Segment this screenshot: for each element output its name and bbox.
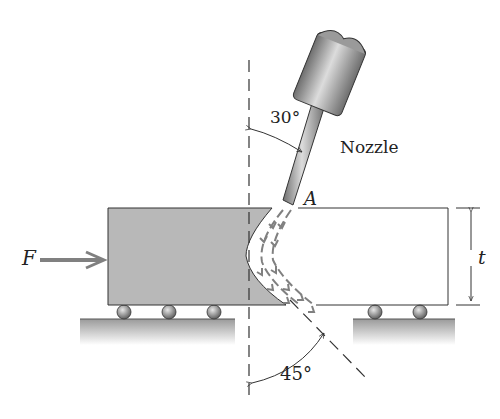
nozzle-body xyxy=(292,26,369,118)
force-arrow xyxy=(40,252,104,268)
angle-45-label: 45° xyxy=(280,363,312,384)
workpiece-cut xyxy=(108,208,286,305)
angle-arc-30 xyxy=(251,129,302,152)
thickness-dimension xyxy=(456,208,480,305)
waterjet-diagram xyxy=(0,0,500,419)
angle-30-label: 30° xyxy=(270,107,300,127)
thickness-label: t xyxy=(478,246,486,268)
nozzle-label: Nozzle xyxy=(340,137,399,157)
force-label: F xyxy=(22,246,36,270)
ground-left xyxy=(80,319,235,345)
rollers xyxy=(117,305,427,319)
ground-right xyxy=(353,319,455,345)
point-a-label: A xyxy=(304,188,317,209)
workpiece-uncut xyxy=(298,208,448,305)
